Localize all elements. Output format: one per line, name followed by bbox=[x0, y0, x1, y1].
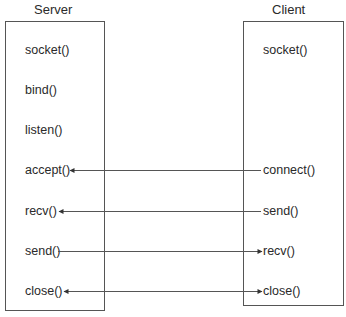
arrows-layer bbox=[0, 0, 346, 317]
